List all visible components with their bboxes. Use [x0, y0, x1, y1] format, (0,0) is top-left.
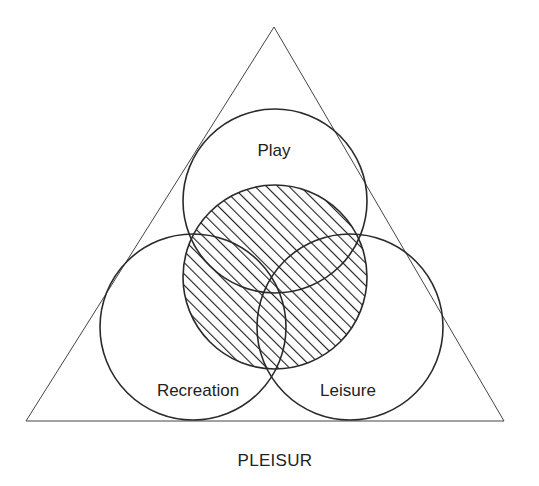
play-label: Play [257, 141, 291, 160]
pleisur-venn-diagram: Play Recreation Leisure PLEISUR [0, 0, 539, 486]
recreation-label: Recreation [157, 381, 239, 400]
pleisur-title: PLEISUR [238, 451, 313, 470]
hatched-core-circle [183, 185, 367, 369]
leisure-label: Leisure [320, 381, 376, 400]
